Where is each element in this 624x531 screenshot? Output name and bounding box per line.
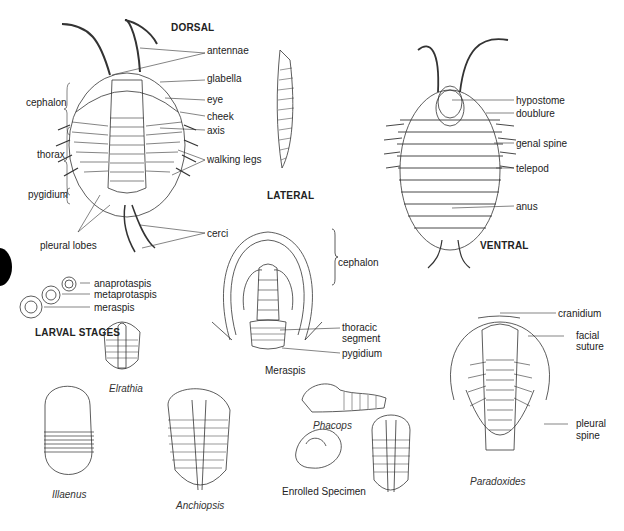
label-cranidium: cranidium (558, 308, 601, 319)
caption-elrathia: Elrathia (109, 383, 143, 394)
label-telepod: telepod (516, 163, 549, 174)
label-pleural-lobes: pleural lobes (40, 240, 97, 251)
label-pygidium: pygidium (28, 189, 68, 200)
label-facial-line1: facial (576, 330, 599, 341)
larval-stage-drawings (20, 277, 76, 318)
caption-illaenus: Illaenus (52, 489, 86, 500)
caption-paradoxides: Paradoxides (470, 476, 526, 487)
specimen-dorsal-drawing (372, 415, 410, 492)
lateral-trilobite-drawing (277, 50, 294, 168)
label-cheek: cheek (207, 111, 234, 122)
label-meraspis-pygidium: pygidium (342, 348, 382, 359)
label-metaprotaspis: metaprotaspis (94, 289, 157, 300)
label-thoracic-line1: thoracic (342, 322, 377, 333)
label-anus: anus (516, 201, 538, 212)
heading-larval-stages: LARVAL STAGES (35, 327, 120, 338)
trilobite-illustrations (0, 0, 624, 531)
label-meraspis-cephalon: cephalon (338, 257, 379, 268)
dorsal-trilobite-drawing (56, 20, 198, 252)
anchiopsis-drawing (168, 389, 230, 490)
caption-enrolled-specimen: Enrolled Specimen (282, 486, 366, 497)
paradoxides-leader-lines (500, 313, 568, 424)
enrolled-specimen-drawing (296, 429, 342, 468)
label-antennae: antennae (207, 45, 249, 56)
label-walking-legs: walking legs (207, 154, 261, 165)
phacops-drawing (302, 384, 386, 412)
caption-meraspis: Meraspis (265, 365, 306, 376)
heading-ventral: VENTRAL (480, 240, 529, 251)
label-facial-line2: suture (576, 341, 604, 352)
label-anaprotaspis: anaprotaspis (94, 278, 151, 289)
illaenus-drawing (44, 386, 94, 474)
label-cephalon: cephalon (26, 97, 67, 108)
caption-anchiopsis: Anchiopsis (176, 500, 224, 511)
dorsal-leader-lines (64, 48, 205, 248)
label-thoracic-line2: segment (342, 333, 380, 344)
ventral-trilobite-drawing (384, 39, 516, 268)
heading-dorsal: DORSAL (171, 22, 214, 33)
label-genal-spine: genal spine (516, 138, 567, 149)
heading-lateral: LATERAL (267, 190, 314, 201)
label-cerci: cerci (207, 228, 228, 239)
larval-leader-lines (44, 283, 90, 307)
label-meraspis: meraspis (94, 302, 135, 313)
meraspis-leader-lines (280, 328, 340, 353)
label-axis: axis (207, 125, 225, 136)
caption-phacops: Phacops (313, 420, 352, 431)
label-eye: eye (207, 94, 223, 105)
label-doublure: doublure (516, 108, 555, 119)
label-hypostome: hypostome (516, 95, 565, 106)
label-pleural-line1: pleural (576, 418, 606, 429)
label-glabella: glabella (207, 73, 241, 84)
label-pleural-line2: spine (576, 430, 600, 441)
label-thorax: thorax (37, 149, 65, 160)
meraspis-drawing (212, 229, 338, 349)
